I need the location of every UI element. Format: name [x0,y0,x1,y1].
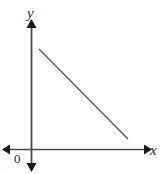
coordinate-plane-figure: y x 0 [0,0,161,174]
x-axis-label: x [149,142,157,158]
plotted-line-segment [39,49,128,139]
y-axis-label: y [25,5,34,21]
coordinate-plot-svg: y x 0 [0,0,161,174]
y-axis-down-arrow-icon [27,163,37,172]
origin-label: 0 [14,151,21,166]
x-axis-left-arrow-icon [2,145,10,155]
